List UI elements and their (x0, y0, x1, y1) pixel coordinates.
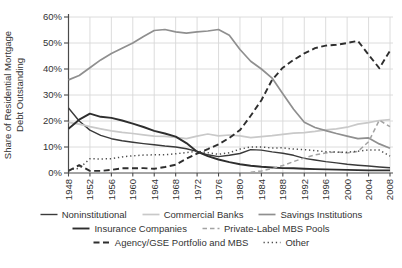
series-line-insurance-companies (69, 114, 391, 171)
legend-item-savings-institutions: Savings Institutions (258, 209, 362, 220)
legend-row: NoninstitutionalCommercial BanksSavings … (0, 209, 402, 220)
legend-item-insurance-companies: Insurance Companies (72, 223, 186, 234)
x-tick-label: 2004 (363, 179, 374, 200)
y-tick-label: 0% (48, 167, 62, 178)
legend-label: Other (285, 237, 309, 248)
legend-label: Insurance Companies (94, 223, 186, 234)
series-line-private-label-mbs-pools (251, 120, 390, 172)
y-tick-labels: 0%10%20%30%40%50%60% (43, 11, 69, 178)
y-tick-label: 60% (43, 11, 63, 22)
x-tick-label: 1988 (277, 179, 288, 200)
gridlines (69, 17, 394, 173)
legend-swatch-icon (142, 210, 160, 219)
legend-swatch-icon (40, 210, 58, 219)
series-line-noninstitutional (69, 108, 391, 168)
legend-item-other: Other (263, 237, 309, 248)
legend-row: Insurance CompaniesPrivate-Label MBS Poo… (0, 223, 402, 234)
legend-swatch-icon (258, 210, 276, 219)
y-tick-label: 50% (43, 37, 63, 48)
y-tick-label: 30% (43, 89, 63, 100)
x-tick-label: 1980 (234, 179, 245, 200)
y-tick-label: 20% (43, 115, 63, 126)
x-tick-label: 1976 (213, 179, 224, 200)
legend-swatch-icon (72, 224, 90, 233)
legend-swatch-icon (202, 224, 220, 233)
legend-label: Private-Label MBS Pools (224, 223, 330, 234)
series-line-agency-gse-portfolio-and-mbs (69, 41, 391, 171)
series-line-commercial-banks (69, 120, 391, 139)
legend-swatch-icon (93, 238, 111, 247)
x-tick-label: 1984 (256, 179, 267, 200)
x-tick-label: 2008 (384, 179, 395, 200)
x-tick-label: 1948 (63, 179, 74, 200)
series-line-savings-institutions (69, 30, 391, 149)
x-tick-label: 1956 (106, 179, 117, 200)
legend-label: Noninstitutional (62, 209, 127, 220)
y-tick-label: 40% (43, 63, 63, 74)
x-tick-label: 1972 (192, 179, 203, 200)
legend-item-noninstitutional: Noninstitutional (40, 209, 127, 220)
legend-row: Agency/GSE Portfolio and MBSOther (0, 237, 402, 248)
series-line-other (69, 147, 391, 170)
plot-area: 0%10%20%30%40%50%60%19481952195619601964… (0, 0, 402, 206)
x-tick-label: 1992 (299, 179, 310, 200)
legend-item-private-label-mbs-pools: Private-Label MBS Pools (202, 223, 330, 234)
chart-legend: NoninstitutionalCommercial BanksSavings … (0, 209, 402, 251)
x-tick-label: 1952 (84, 179, 95, 200)
mortgage-share-chart: Share of Residential Mortgage Debt Outst… (0, 0, 402, 268)
x-tick-labels: 1948195219561960196419681972197619801984… (63, 173, 396, 200)
legend-label: Savings Institutions (280, 209, 362, 220)
legend-item-commercial-banks: Commercial Banks (142, 209, 244, 220)
legend-swatch-icon (263, 238, 281, 247)
x-tick-label: 1960 (127, 179, 138, 200)
y-tick-label: 10% (43, 141, 63, 152)
legend-item-agency-gse-portfolio-and-mbs: Agency/GSE Portfolio and MBS (93, 237, 249, 248)
legend-label: Agency/GSE Portfolio and MBS (115, 237, 249, 248)
x-tick-label: 1964 (149, 179, 160, 200)
series-lines (69, 30, 391, 173)
x-tick-label: 1996 (320, 179, 331, 200)
x-tick-label: 2000 (342, 179, 353, 200)
x-tick-label: 1968 (170, 179, 181, 200)
legend-label: Commercial Banks (164, 209, 244, 220)
